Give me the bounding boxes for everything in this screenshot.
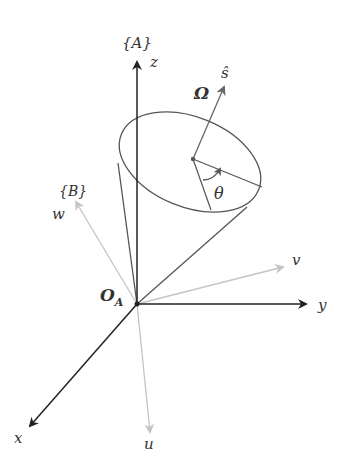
theta-label: θ [214,184,224,203]
frame-a-label: {A} [122,34,152,52]
cone-radius-bottom [193,159,211,210]
x-axis [30,304,137,426]
v-axis-label: v [292,251,301,269]
y-axis-label: y [317,296,327,314]
s-hat-label: ŝ [221,64,229,82]
omega-label: Ω [193,83,209,103]
z-axis-label: z [149,53,158,71]
cone [105,87,276,304]
frame-a-axes [30,62,306,426]
cone-base-ellipse [105,93,276,232]
u-axis [137,304,150,432]
theta-arc [203,169,220,180]
cone-left-generator [118,163,137,304]
frame-b-axes [76,202,283,432]
cone-frame-diagram: {A} z y x OA {B} w v u ŝ Ω θ [0,0,351,476]
x-axis-label: x [14,429,23,447]
origin-point [135,302,140,307]
w-axis-label: w [52,205,65,223]
frame-b-label: {B} [59,183,87,199]
u-axis-label: u [144,435,154,453]
cone-radius-right [193,159,262,187]
origin-label: OA [100,285,124,309]
